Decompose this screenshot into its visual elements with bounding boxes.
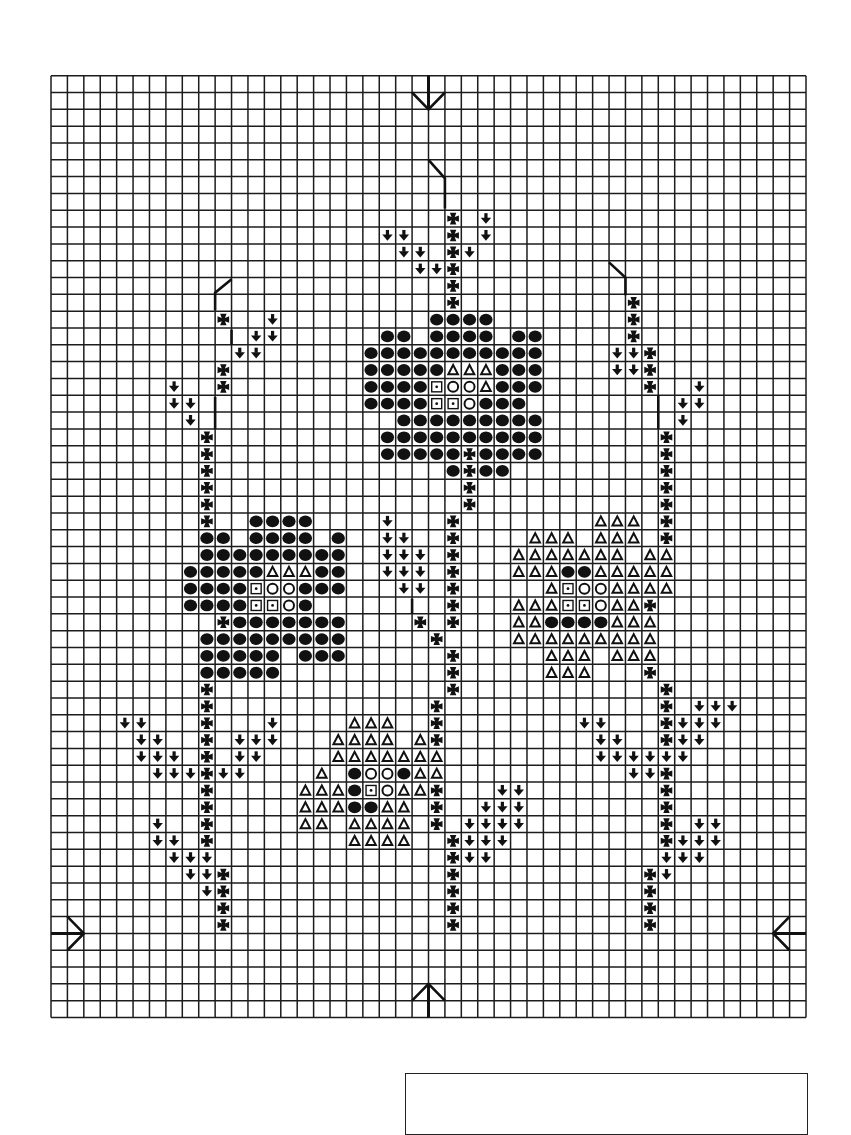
symbol-filled-circle-icon (561, 566, 574, 578)
symbol-filled-circle-icon (414, 448, 427, 460)
symbol-hollow-triangle-icon (333, 752, 343, 761)
symbol-filled-circle-icon (430, 364, 443, 376)
symbol-filled-circle-icon (348, 768, 361, 780)
symbol-dotted-square-icon (366, 785, 376, 795)
symbol-filled-circle-icon (250, 633, 263, 645)
symbol-down-arrow-leaf-icon (120, 718, 130, 729)
symbol-filled-circle-icon (282, 515, 295, 527)
symbol-down-arrow-leaf-icon (185, 415, 195, 426)
symbol-down-arrow-leaf-icon (497, 785, 507, 796)
symbol-maltese-cross-icon (447, 600, 459, 612)
symbol-hollow-triangle-icon (514, 567, 524, 576)
symbol-maltese-cross-icon (464, 465, 476, 477)
symbol-down-arrow-leaf-icon (152, 751, 162, 762)
symbol-down-arrow-leaf-icon (694, 701, 704, 712)
symbol-maltese-cross-icon (447, 902, 459, 914)
symbol-filled-circle-icon (233, 650, 246, 662)
symbol-hollow-triangle-icon (383, 718, 393, 727)
symbol-hollow-triangle-icon (530, 617, 540, 626)
symbol-filled-circle-icon (282, 616, 295, 628)
symbol-filled-circle-icon (200, 583, 213, 595)
symbol-filled-circle-icon (430, 330, 443, 342)
symbol-hollow-triangle-icon (612, 584, 622, 593)
symbol-down-arrow-leaf-icon (169, 381, 179, 392)
symbol-hollow-triangle-icon (301, 819, 311, 828)
symbol-filled-circle-icon (250, 616, 263, 628)
symbol-filled-circle-icon (447, 330, 460, 342)
symbol-down-arrow-leaf-icon (136, 735, 146, 746)
symbol-maltese-cross-icon (447, 869, 459, 881)
symbol-down-arrow-leaf-icon (645, 751, 655, 762)
symbol-filled-circle-icon (512, 398, 525, 410)
symbol-down-arrow-leaf-icon (481, 852, 491, 863)
symbol-filled-circle-icon (414, 347, 427, 359)
symbol-maltese-cross-icon (447, 549, 459, 561)
symbol-maltese-cross-icon (464, 499, 476, 511)
symbol-hollow-triangle-icon (366, 735, 376, 744)
symbol-filled-circle-icon (397, 330, 410, 342)
symbol-filled-circle-icon (430, 448, 443, 460)
symbol-hollow-triangle-icon (514, 617, 524, 626)
symbol-filled-circle-icon (529, 431, 542, 443)
symbol-hollow-triangle-icon (415, 769, 425, 778)
symbol-maltese-cross-icon (201, 751, 213, 763)
symbol-down-arrow-leaf-icon (169, 852, 179, 863)
symbol-maltese-cross-icon (644, 381, 656, 393)
symbol-maltese-cross-icon (661, 431, 673, 443)
symbol-hollow-triangle-icon (530, 550, 540, 559)
symbol-down-arrow-leaf-icon (169, 751, 179, 762)
symbol-down-arrow-leaf-icon (481, 230, 491, 241)
symbol-filled-circle-icon (217, 650, 230, 662)
symbol-hollow-circle-icon (596, 600, 606, 610)
symbol-maltese-cross-icon (661, 734, 673, 746)
symbol-filled-circle-icon (299, 600, 312, 612)
symbol-hollow-triangle-icon (530, 533, 540, 542)
symbol-filled-circle-icon (217, 667, 230, 679)
symbol-down-arrow-leaf-icon (464, 819, 474, 830)
symbol-hollow-circle-icon (284, 600, 294, 610)
symbol-maltese-cross-icon (661, 768, 673, 780)
symbol-down-arrow-leaf-icon (628, 768, 638, 779)
symbol-down-arrow-leaf-icon (169, 398, 179, 409)
symbol-hollow-triangle-icon (432, 752, 442, 761)
symbol-hollow-triangle-icon (481, 365, 491, 374)
symbol-maltese-cross-icon (447, 835, 459, 847)
symbol-filled-circle-icon (447, 347, 460, 359)
symbol-down-arrow-leaf-icon (185, 852, 195, 863)
symbol-maltese-cross-icon (661, 835, 673, 847)
symbol-down-arrow-leaf-icon (399, 230, 409, 241)
symbol-maltese-cross-icon (201, 768, 213, 780)
symbol-maltese-cross-icon (644, 869, 656, 881)
symbol-hollow-triangle-icon (350, 819, 360, 828)
symbol-down-arrow-leaf-icon (267, 735, 277, 746)
symbol-filled-circle-icon (217, 583, 230, 595)
symbol-maltese-cross-icon (218, 886, 230, 898)
symbol-filled-circle-icon (315, 616, 328, 628)
symbol-down-arrow-leaf-icon (694, 735, 704, 746)
symbol-maltese-cross-icon (431, 801, 443, 813)
symbol-hollow-triangle-icon (415, 752, 425, 761)
symbol-hollow-triangle-icon (580, 651, 590, 660)
symbol-filled-circle-icon (414, 364, 427, 376)
symbol-filled-circle-icon (479, 314, 492, 326)
symbol-filled-circle-icon (332, 532, 345, 544)
symbol-maltese-cross-icon (201, 701, 213, 713)
symbol-down-arrow-leaf-icon (251, 751, 261, 762)
symbol-filled-circle-icon (200, 650, 213, 662)
symbol-hollow-triangle-icon (612, 651, 622, 660)
symbol-filled-circle-icon (496, 448, 509, 460)
symbol-filled-circle-icon (529, 381, 542, 393)
symbol-hollow-triangle-icon (366, 819, 376, 828)
symbol-hollow-triangle-icon (580, 550, 590, 559)
symbol-hollow-triangle-icon (415, 785, 425, 794)
symbol-maltese-cross-icon (661, 516, 673, 528)
symbol-filled-circle-icon (364, 801, 377, 813)
symbol-filled-circle-icon (233, 667, 246, 679)
symbol-filled-circle-icon (217, 532, 230, 544)
symbol-hollow-triangle-icon (662, 550, 672, 559)
symbol-filled-circle-icon (250, 532, 263, 544)
symbol-hollow-triangle-icon (629, 617, 639, 626)
symbol-filled-circle-icon (332, 616, 345, 628)
symbol-dotted-square-icon (563, 600, 573, 610)
symbol-down-arrow-leaf-icon (481, 819, 491, 830)
